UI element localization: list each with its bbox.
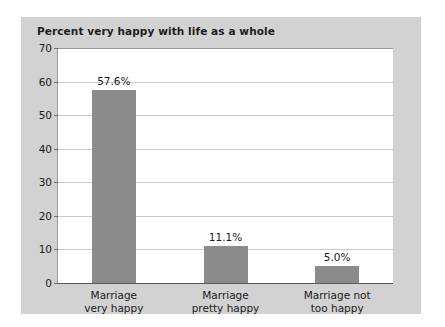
x-axis-category-label: Marriagepretty happy [192,289,260,314]
y-axis-tick-label: 30 [39,176,52,188]
y-axis-tick-mark [54,48,58,49]
x-axis-category-label: Marriage nottoo happy [304,289,371,314]
x-axis-category-label-line: Marriage [192,289,260,302]
gridline [58,48,393,49]
y-axis-tick-mark [54,149,58,150]
y-axis-tick-mark [54,216,58,217]
x-axis-category-label: Marriagevery happy [84,289,143,314]
y-axis-tick-mark [54,249,58,250]
chart-screenshot: Percent very happy with life as a whole … [0,0,445,327]
bar: 11.1% [204,246,248,283]
x-axis-category-label-line: too happy [304,302,371,315]
x-axis-category-label-line: Marriage not [304,289,371,302]
y-axis-tick-mark [54,182,58,183]
chart-title: Percent very happy with life as a whole [37,25,275,37]
bar-value-label: 11.1% [209,231,242,243]
bar-value-label: 57.6% [97,75,130,87]
x-axis-category-label-line: Marriage [84,289,143,302]
y-axis-tick-label: 0 [45,277,52,289]
bar: 5.0% [315,266,359,283]
x-axis-category-label-line: pretty happy [192,302,260,315]
chart-panel: Percent very happy with life as a whole … [21,17,421,314]
y-axis-tick-label: 40 [39,143,52,155]
y-axis-tick-label: 50 [39,109,52,121]
y-axis-tick-label: 20 [39,210,52,222]
x-axis-category-label-line: very happy [84,302,143,315]
y-axis-tick-label: 10 [39,243,52,255]
bar-value-label: 5.0% [324,251,351,263]
bar: 57.6% [92,90,136,283]
y-axis-tick-label: 70 [39,42,52,54]
y-axis-tick-label: 60 [39,76,52,88]
y-axis-tick-mark [54,283,58,284]
y-axis-tick-mark [54,115,58,116]
plot-area: 70605040302010057.6%Marriagevery happy11… [57,48,393,284]
y-axis-tick-mark [54,82,58,83]
